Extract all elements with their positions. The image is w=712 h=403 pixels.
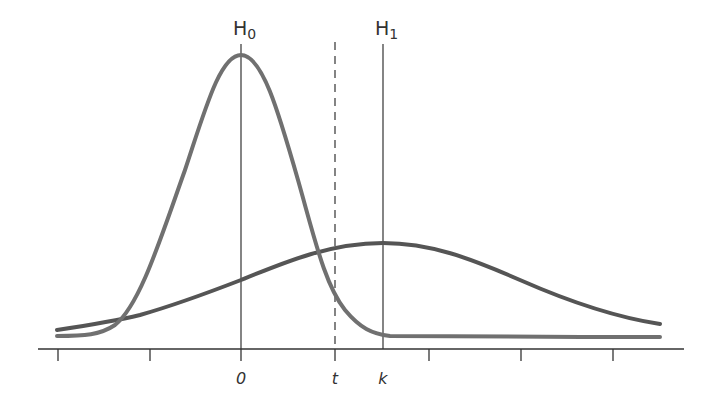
hypothesis-diagram: H0 H1 0 t k bbox=[0, 0, 712, 403]
axis-ticks bbox=[58, 349, 613, 361]
axis-label-threshold: t bbox=[332, 369, 339, 388]
h1-distribution-curve bbox=[57, 243, 660, 330]
h0-label: H0 bbox=[233, 17, 256, 42]
axis-label-zero: 0 bbox=[236, 369, 246, 388]
h1-label: H1 bbox=[375, 17, 398, 42]
h0-distribution-curve bbox=[57, 55, 660, 337]
axis-label-k: k bbox=[378, 369, 388, 388]
